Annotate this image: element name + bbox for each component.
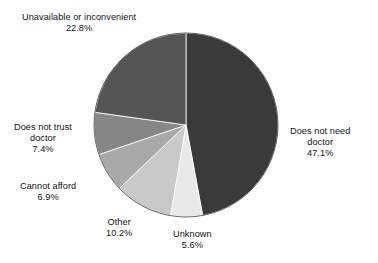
- slice-label-name: Does not trust: [14, 122, 72, 133]
- slice-label-unavailable-or-inconvenient: Unavailable or inconvenient 22.8%: [22, 12, 136, 34]
- pie-slice[interactable]: [186, 33, 278, 215]
- slice-label-does-not-need-doctor: Does not need doctor 47.1%: [290, 126, 350, 160]
- slice-label-name: Other: [106, 217, 132, 228]
- slice-label-name: Unavailable or inconvenient: [22, 12, 136, 23]
- slice-label-other: Other 10.2%: [106, 217, 132, 239]
- slice-label-value: 10.2%: [106, 228, 132, 239]
- slice-label-does-not-trust-doctor: Does not trust doctor 7.4%: [14, 122, 72, 156]
- slice-label-value: 6.9%: [20, 192, 76, 203]
- pie-slices-group: [94, 33, 278, 217]
- slice-label-name: Cannot afford: [20, 181, 76, 192]
- slice-label-value: 22.8%: [22, 23, 136, 34]
- slice-label-name-line2: doctor: [290, 137, 350, 148]
- pie-chart-figure: Unavailable or inconvenient 22.8% Does n…: [0, 0, 378, 263]
- slice-label-value: 47.1%: [290, 148, 350, 159]
- slice-label-unknown: Unknown 5.6%: [173, 229, 212, 251]
- pie-slice[interactable]: [95, 33, 186, 125]
- slice-label-name-line2: doctor: [14, 133, 72, 144]
- slice-label-name: Unknown: [173, 229, 212, 240]
- slice-label-value: 7.4%: [14, 144, 72, 155]
- slice-label-name: Does not need: [290, 126, 350, 137]
- slice-label-value: 5.6%: [173, 240, 212, 251]
- slice-label-cannot-afford: Cannot afford 6.9%: [20, 181, 76, 203]
